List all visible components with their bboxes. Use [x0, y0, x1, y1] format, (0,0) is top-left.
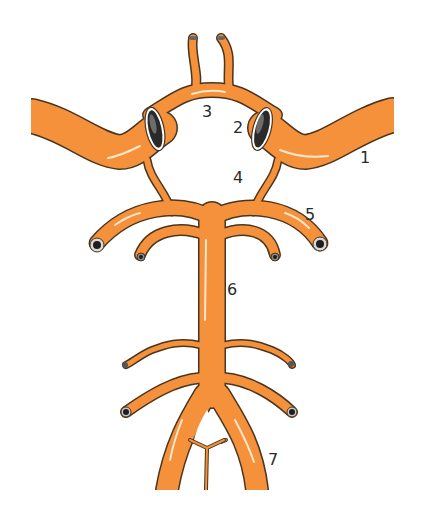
label-3: 3: [202, 104, 212, 120]
label-6: 6: [227, 282, 237, 298]
label-7: 7: [268, 452, 278, 468]
right-superior-cerebellar-artery: [220, 230, 275, 255]
circle-of-willis-diagram: [0, 0, 425, 510]
left-aca-branch: [192, 38, 196, 92]
label-2: 2: [233, 120, 243, 136]
label-4: 4: [233, 170, 243, 186]
label-5: 5: [305, 207, 315, 223]
label-1: 1: [360, 150, 370, 166]
